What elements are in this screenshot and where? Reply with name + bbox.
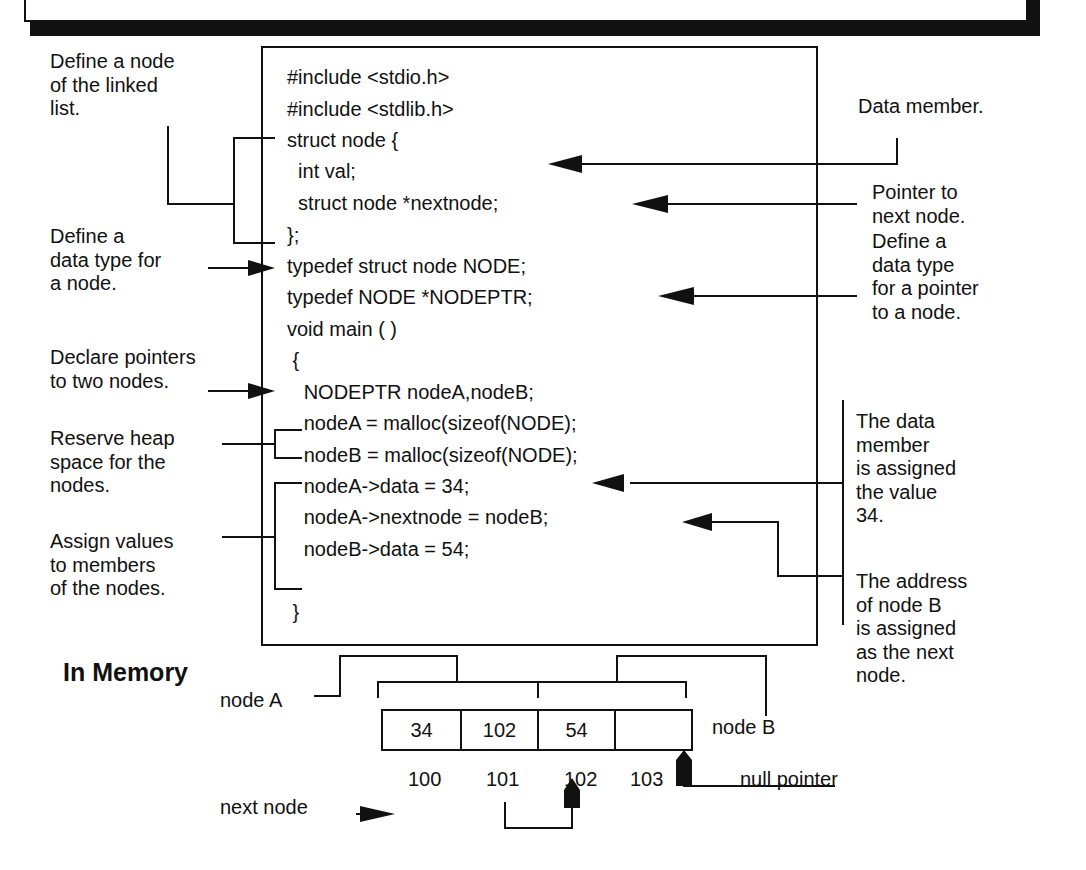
connector-lines — [0, 0, 1086, 870]
